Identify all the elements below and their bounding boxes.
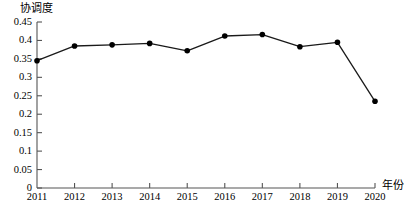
x-axis-tick-label: 2015 <box>167 192 207 202</box>
x-axis-tick-label: 2017 <box>242 192 282 202</box>
data-point-marker <box>72 43 78 49</box>
x-axis-tick-label: 2019 <box>317 192 357 202</box>
y-axis-tick-label: 0.2 <box>0 109 32 119</box>
data-point-marker <box>109 42 115 48</box>
series-line-coordination <box>37 35 375 102</box>
x-axis-tick-label: 2020 <box>355 192 395 202</box>
x-axis-title: 年份 <box>382 176 404 192</box>
x-axis-ticks <box>75 183 375 188</box>
data-series <box>37 35 375 102</box>
data-point-marker <box>260 32 266 38</box>
y-axis-tick-label: 0.1 <box>0 146 32 156</box>
x-axis-tick-label: 2014 <box>130 192 170 202</box>
y-axis-tick-label: 0.45 <box>0 17 32 27</box>
y-axis-ticks <box>37 22 42 188</box>
y-axis-title: 协调度 <box>20 0 53 15</box>
y-axis-tick-label: 0.4 <box>0 35 32 45</box>
x-axis-tick-label: 2012 <box>55 192 95 202</box>
chart-container: 协调度 年份 00.050.10.150.20.250.30.350.40.45… <box>0 0 411 223</box>
axis-lines <box>37 22 375 188</box>
data-point-markers <box>34 32 378 104</box>
data-point-marker <box>222 33 228 39</box>
line-chart-plot <box>0 0 411 223</box>
data-point-marker <box>372 99 378 105</box>
data-point-marker <box>147 41 153 47</box>
y-axis-tick-label: 0.25 <box>0 91 32 101</box>
x-axis-tick-label: 2013 <box>92 192 132 202</box>
y-axis-tick-label: 0.3 <box>0 72 32 82</box>
data-point-marker <box>335 39 341 45</box>
x-axis-tick-label: 2011 <box>17 192 57 202</box>
data-point-marker <box>34 58 40 64</box>
y-axis-tick-label: 0.15 <box>0 128 32 138</box>
y-axis-tick-label: 0.05 <box>0 165 32 175</box>
y-axis-tick-label: 0.35 <box>0 54 32 64</box>
data-point-marker <box>184 48 190 54</box>
x-axis-tick-label: 2016 <box>205 192 245 202</box>
x-axis-tick-label: 2018 <box>280 192 320 202</box>
data-point-marker <box>297 44 303 50</box>
